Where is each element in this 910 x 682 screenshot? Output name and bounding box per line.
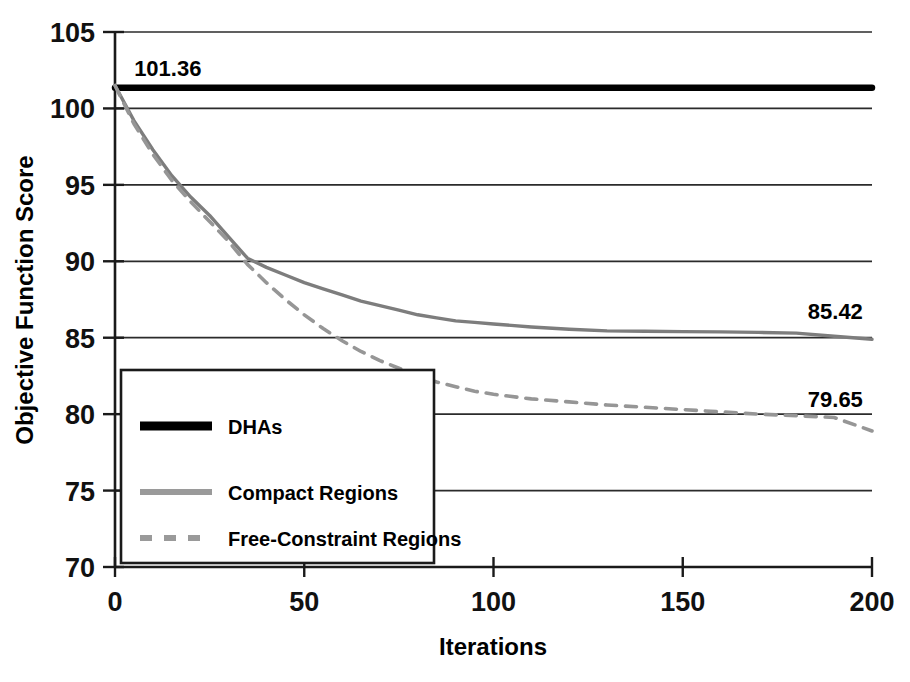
- y-tick-label: 100: [50, 94, 95, 124]
- y-tick-label: 70: [65, 553, 95, 583]
- x-axis-title: Iterations: [439, 633, 547, 660]
- y-tick-label: 105: [50, 18, 95, 48]
- annotation-value: 79.65: [808, 387, 863, 412]
- y-axis-title: Objective Function Score: [11, 155, 38, 444]
- line-chart: 707580859095100105 050100150200 Iteratio…: [0, 0, 910, 682]
- x-tick-label: 200: [849, 587, 894, 617]
- chart-background: [0, 0, 910, 682]
- y-tick-label: 90: [65, 247, 95, 277]
- x-tick-label: 150: [660, 587, 705, 617]
- y-tick-label: 85: [65, 324, 95, 354]
- y-tick-label: 95: [65, 171, 95, 201]
- chart-legend[interactable]: DHAsCompact RegionsFree-Constraint Regio…: [121, 370, 461, 563]
- x-tick-label: 50: [289, 587, 319, 617]
- y-tick-label: 75: [65, 477, 95, 507]
- legend-label: Free-Constraint Regions: [228, 528, 461, 550]
- annotation-value: 85.42: [808, 299, 863, 324]
- legend-label: DHAs: [228, 416, 282, 438]
- x-tick-label: 100: [471, 587, 516, 617]
- y-tick-label: 80: [65, 400, 95, 430]
- legend-label: Compact Regions: [228, 482, 398, 504]
- x-tick-label: 0: [107, 587, 122, 617]
- annotation-value: 101.36: [134, 56, 201, 81]
- chart-container: 707580859095100105 050100150200 Iteratio…: [0, 0, 910, 682]
